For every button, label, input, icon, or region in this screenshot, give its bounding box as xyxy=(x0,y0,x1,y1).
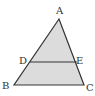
label-a: A xyxy=(55,5,64,16)
triangle-abc xyxy=(14,19,84,85)
label-b: B xyxy=(2,80,9,91)
label-d: D xyxy=(19,55,27,66)
label-c: C xyxy=(86,82,94,93)
label-e: E xyxy=(76,55,83,66)
triangle-diagram: A B C D E xyxy=(0,0,95,96)
